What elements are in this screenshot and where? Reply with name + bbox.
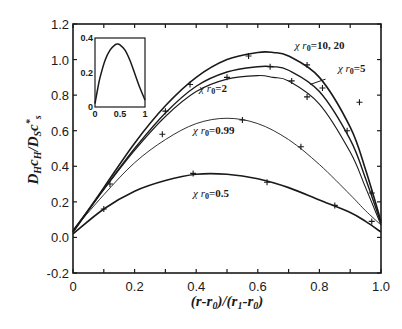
x-tick-label: 0	[69, 279, 76, 294]
y-tick-label: 0.0	[51, 230, 69, 245]
x-tick-label: 0.4	[187, 279, 205, 294]
inset-y-tick-label: 0.2	[80, 68, 93, 78]
plus-marker-icon	[319, 85, 325, 91]
x-tick-label: 0.8	[310, 279, 328, 294]
plus-marker-icon	[239, 117, 245, 123]
plus-marker-icon	[289, 78, 295, 84]
inset-x-tick-label: 0	[92, 109, 97, 119]
plus-marker-icon	[356, 99, 362, 105]
plus-marker-icon	[187, 81, 193, 87]
label-chi-r0-10-20: χ r0=10, 20	[294, 39, 345, 53]
x-tick-label: 1.0	[372, 279, 390, 294]
x-tick-label: 0.2	[126, 279, 144, 294]
chart: 00.20.40.60.81.0-0.20.00.20.40.60.81.01.…	[0, 0, 402, 329]
y-tick-label: 0.8	[51, 88, 69, 103]
label-chi-r0-0.5: χ r0=0.5	[192, 187, 229, 201]
y-tick-label: 0.4	[51, 159, 69, 174]
plus-marker-icon	[344, 128, 350, 134]
svg-text:DHcH/DSc*s: DHcH/DSc*s	[24, 115, 43, 185]
label-chi-r0-5: χ r0=5	[337, 62, 366, 76]
inset-x-tick-label: 1	[142, 109, 147, 119]
x-tick-label: 0.6	[249, 279, 267, 294]
label-chi-r0-0.99: χ r0=0.99	[192, 124, 235, 138]
x-axis-title: (r-r0)/(r1-r0)	[191, 293, 264, 311]
inset-frame	[95, 38, 145, 107]
plus-marker-icon	[298, 144, 304, 150]
y-tick-label: 0.2	[51, 195, 69, 210]
inset-x-tick-label: 0.5	[114, 109, 127, 119]
inset-y-tick-label: 0.4	[80, 33, 93, 43]
y-tick-label: 1.2	[51, 17, 69, 32]
plus-marker-icon	[267, 64, 273, 70]
inset-y-tick-label: 0	[88, 102, 93, 112]
inset-plot: 00.5100.20.4	[80, 33, 147, 119]
y-tick-label: -0.2	[47, 266, 69, 281]
y-axis-title: DHcH/DSc*s	[24, 115, 43, 185]
y-tick-label: 1.0	[51, 53, 69, 68]
y-tick-label: 0.6	[51, 124, 69, 139]
plus-marker-icon	[159, 131, 165, 137]
plus-marker-icon	[304, 62, 310, 68]
